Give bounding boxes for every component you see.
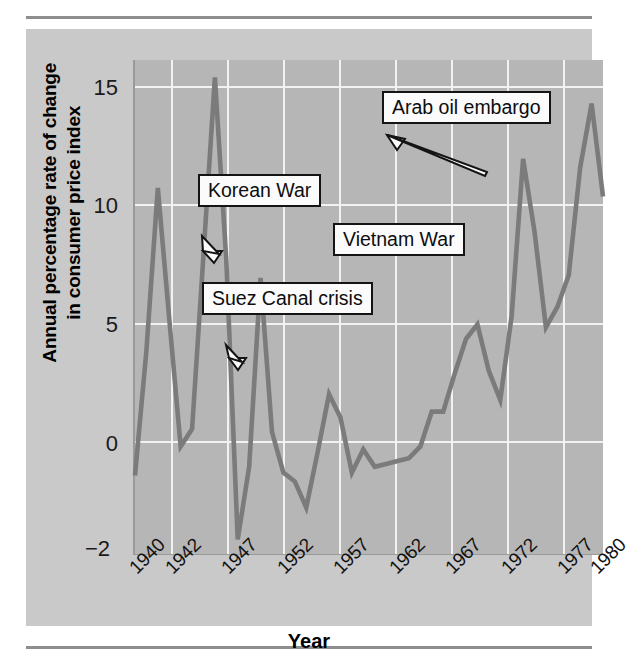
chart-panel: Annual percentage rate of change in cons… (26, 29, 592, 626)
annotation-suez-canal-crisis-tail (26, 29, 592, 626)
x-axis-title: Year (26, 630, 592, 653)
annotation-suez-canal-crisis-label: Suez Canal crisis (202, 282, 373, 315)
top-rule (26, 16, 592, 19)
